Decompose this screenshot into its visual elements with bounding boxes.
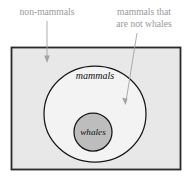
set-label-whales: whales [80, 127, 106, 137]
set-label-mammals: mammals [76, 70, 114, 81]
annotation-label-mammals-not-whales-line1: mammals that [117, 6, 171, 17]
euler-diagram-figure: mammals whales non-mammals mammals that … [0, 0, 192, 182]
annotation-label-mammals-not-whales-line2: are not whales [116, 18, 172, 29]
annotation-label-non-mammals: non-mammals [20, 6, 75, 17]
euler-diagram-canvas: mammals whales non-mammals mammals that … [0, 0, 192, 182]
